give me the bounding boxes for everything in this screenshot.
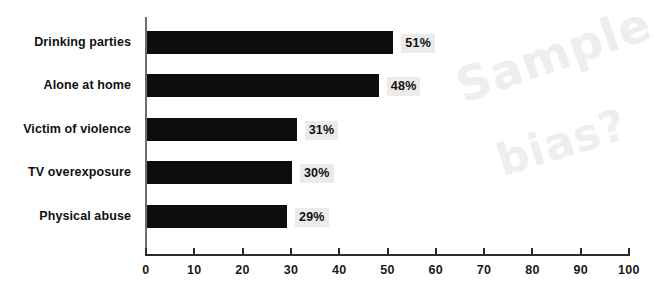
x-axis-tick: [531, 248, 533, 256]
bar-value-label: 31%: [305, 121, 339, 140]
x-axis-tick-label: 30: [284, 263, 299, 277]
bar: [147, 31, 393, 54]
x-axis-tick: [193, 248, 195, 256]
x-axis-tick: [338, 248, 340, 256]
x-axis-tick: [435, 248, 437, 256]
bar-chart: Sample bias? 0102030405060708090100 51%4…: [0, 0, 663, 292]
bar-value-label: 29%: [295, 208, 329, 227]
x-axis-tick: [290, 248, 292, 256]
x-axis-tick: [387, 248, 389, 256]
bar-value-label: 30%: [300, 164, 334, 183]
x-axis-tick-label: 50: [380, 263, 395, 277]
x-axis-tick: [145, 248, 147, 256]
bar: [147, 118, 297, 141]
category-label: TV overexposure: [0, 165, 131, 179]
x-axis-tick-label: 40: [332, 263, 347, 277]
x-axis-tick-label: 80: [525, 263, 540, 277]
x-axis-tick-label: 60: [429, 263, 444, 277]
x-axis-tick-label: 20: [235, 263, 250, 277]
x-axis-tick-label: 70: [477, 263, 492, 277]
bar-value-label: 51%: [401, 34, 435, 53]
category-label: Alone at home: [0, 78, 131, 92]
category-label: Victim of violence: [0, 122, 131, 136]
category-label: Drinking parties: [0, 35, 131, 49]
x-axis-tick: [628, 248, 630, 256]
bar: [147, 205, 287, 228]
x-axis-tick: [483, 248, 485, 256]
bar: [147, 161, 292, 184]
x-axis-tick: [242, 248, 244, 256]
bar: [147, 74, 379, 97]
x-axis-tick-label: 0: [142, 263, 149, 277]
category-label: Physical abuse: [0, 209, 131, 223]
x-axis-tick-label: 100: [618, 263, 640, 277]
bar-value-label: 48%: [387, 77, 421, 96]
x-axis-tick-label: 10: [187, 263, 202, 277]
x-axis-tick-label: 90: [573, 263, 588, 277]
x-axis-tick: [580, 248, 582, 256]
plot-area: 0102030405060708090100 51%48%31%30%29% D…: [0, 0, 663, 292]
